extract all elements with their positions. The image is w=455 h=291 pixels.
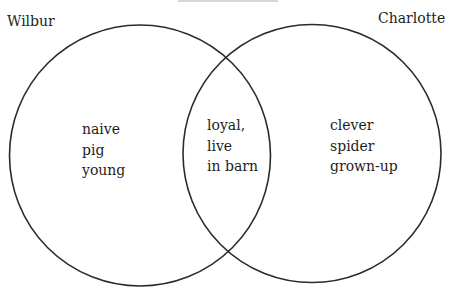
trait-item: clever <box>330 115 398 136</box>
trait-item: loyal, <box>207 115 258 136</box>
charlotte-only-region: clever spider grown-up <box>330 115 398 177</box>
venn-diagram: Wilbur Charlotte naive pig young loyal, … <box>0 0 455 291</box>
clipped-title-hint <box>178 0 278 2</box>
wilbur-label: Wilbur <box>7 13 55 29</box>
trait-item: spider <box>330 136 398 157</box>
trait-item: live <box>207 136 258 157</box>
trait-item: naive <box>82 119 125 140</box>
trait-item: young <box>82 160 125 181</box>
trait-item: pig <box>82 140 125 161</box>
wilbur-only-region: naive pig young <box>82 119 125 181</box>
charlotte-label: Charlotte <box>378 10 445 26</box>
trait-item: grown-up <box>330 156 398 177</box>
trait-item: in barn <box>207 156 258 177</box>
intersection-region: loyal, live in barn <box>207 115 258 177</box>
